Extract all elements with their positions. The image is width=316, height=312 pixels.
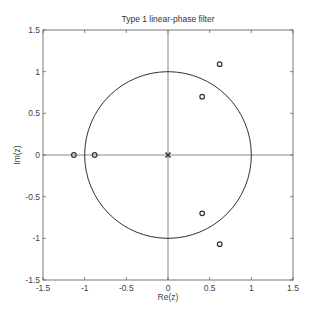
zero-marker: [200, 94, 205, 99]
y-tick-label: 0.5: [28, 108, 40, 118]
y-tick-label: -0.5: [25, 192, 40, 202]
x-axis-label: Re(z): [158, 292, 179, 302]
ticks: -1.5-1-0.500.511.5-1.5-1-0.500.511.5: [25, 25, 299, 293]
zero-marker: [200, 211, 205, 216]
x-tick-label: 1: [249, 283, 254, 293]
zero-marker: [217, 62, 222, 67]
x-tick-label: 0.5: [204, 283, 216, 293]
y-tick-label: 1: [35, 67, 40, 77]
y-tick-label: 1.5: [28, 25, 40, 35]
x-tick-label: -0.5: [119, 283, 134, 293]
y-axis-label: Im(z): [12, 145, 22, 165]
x-tick-label: -1: [81, 283, 89, 293]
chart-title: Type 1 linear-phase filter: [121, 14, 214, 24]
pole-zero-plot: Type 1 linear-phase filter -1.5-1-0.500.…: [0, 0, 316, 312]
markers: [72, 62, 222, 247]
x-tick-label: 1.5: [287, 283, 299, 293]
y-tick-label: -1.5: [25, 275, 40, 285]
zero-marker: [217, 242, 222, 247]
y-tick-label: 0: [35, 150, 40, 160]
y-tick-label: -1: [32, 233, 40, 243]
